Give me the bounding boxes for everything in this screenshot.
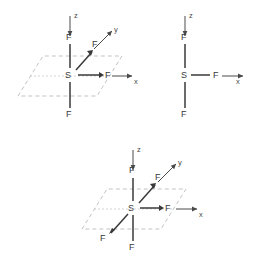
center-atom-label-2: S (181, 71, 187, 80)
ligand-label-f-upright-1: F (92, 40, 98, 49)
bond-upright-1 (76, 52, 92, 70)
axis-label-z-3: z (137, 146, 141, 154)
bond-right-arrow-3 (159, 205, 164, 211)
bond-upright-3 (139, 185, 155, 203)
ligand-label-f-downleft-3: F (100, 234, 106, 243)
bond-right-arrow-1 (99, 72, 104, 78)
ligand-label-f-right-3: F (165, 204, 171, 213)
ligand-label-f-right-2: F (213, 71, 219, 80)
ligand-label-f-right-1: F (105, 71, 111, 80)
axis-label-z-2: z (189, 12, 193, 20)
diagram-vector-layer (0, 0, 260, 260)
axis-label-x-3: x (199, 211, 203, 219)
axis-label-x-2: x (236, 78, 240, 86)
axis-label-y-3: y (178, 159, 182, 167)
diagram-top-right-graphics (185, 16, 243, 108)
ligand-label-f-down-2: F (181, 110, 187, 119)
ligand-label-f-up-2: F (181, 33, 187, 42)
axis-label-z-1: z (74, 12, 78, 20)
center-atom-label-1: S (65, 71, 71, 80)
ligand-label-f-up-3: F (129, 166, 135, 175)
figure-canvas: z y x F F F F S z x F F F S z y x F F F … (0, 0, 260, 260)
axis-label-x-1: x (134, 78, 138, 86)
axis-label-y-1: y (114, 26, 118, 34)
ligand-label-f-down-3: F (129, 243, 135, 252)
ligand-label-f-down-1: F (66, 110, 72, 119)
ligand-label-f-up-1: F (66, 33, 72, 42)
ligand-label-f-upright-3: F (155, 173, 161, 182)
center-atom-label-3: S (128, 204, 134, 213)
